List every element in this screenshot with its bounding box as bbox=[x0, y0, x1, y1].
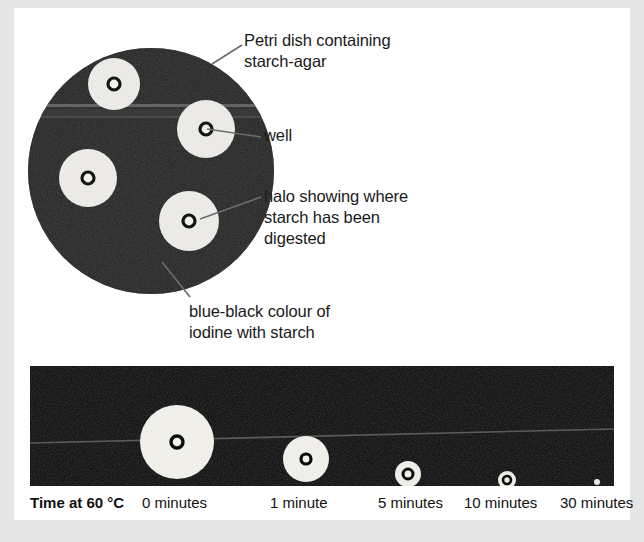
scan-streaks bbox=[24, 104, 284, 118]
strip-sample-0min bbox=[140, 405, 214, 479]
time-tick-10-minutes: 10 minutes bbox=[464, 494, 537, 511]
halo-bottom-right bbox=[159, 191, 219, 251]
strip-sample-1min bbox=[283, 436, 329, 482]
halo-right bbox=[177, 100, 235, 158]
figure-root: Petri dish containing starch-agar well h… bbox=[0, 0, 644, 542]
callout-iodine-colour: blue-black colour of iodine with starch bbox=[189, 301, 330, 343]
time-tick-1-minute: 1 minute bbox=[270, 494, 328, 511]
strip-sample-5min bbox=[395, 461, 421, 486]
photo-strip bbox=[30, 366, 614, 486]
callout-petri-dish: Petri dish containing starch-agar bbox=[244, 30, 391, 72]
photo-strip-graphic bbox=[30, 366, 614, 486]
time-tick-5-minutes: 5 minutes bbox=[378, 494, 443, 511]
strip-sample-30min bbox=[594, 479, 600, 485]
time-axis-title: Time at 60 °C bbox=[30, 494, 124, 511]
figure-paper: Petri dish containing starch-agar well h… bbox=[14, 8, 630, 520]
halo-top-left bbox=[88, 58, 140, 110]
petri-dish-diagram: Petri dish containing starch-agar well h… bbox=[14, 8, 630, 348]
callout-well: well bbox=[264, 125, 292, 146]
time-axis: Time at 60 °C 0 minutes 1 minute 5 minut… bbox=[30, 494, 630, 518]
halo-left bbox=[59, 149, 117, 207]
time-tick-0-minutes: 0 minutes bbox=[142, 494, 207, 511]
leader-line-petri bbox=[212, 45, 242, 64]
callout-halo: halo showing where starch has been diges… bbox=[264, 186, 408, 249]
time-tick-30-minutes: 30 minutes bbox=[560, 494, 633, 511]
